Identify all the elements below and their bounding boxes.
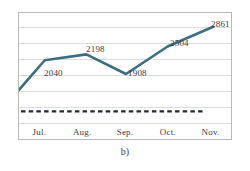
x-axis-tick-oct: Oct. <box>146 124 189 140</box>
x-axis-tick-aug: Aug. <box>61 124 104 140</box>
data-label-jul: 2040 <box>44 68 63 78</box>
data-label-sep: 1908 <box>128 68 147 78</box>
data-label-nov: 2861 <box>211 19 230 29</box>
x-axis-tick-sep: Sep. <box>104 124 147 140</box>
x-axis-tick-nov: Nov. <box>189 124 232 140</box>
figure-panel: 2040 2198 1908 2504 2861 Jul. Aug. Sep. … <box>0 0 250 171</box>
data-label-aug: 2198 <box>86 44 105 54</box>
x-axis-labels: Jul. Aug. Sep. Oct. Nov. <box>18 124 232 140</box>
data-series-line <box>19 27 213 90</box>
data-label-oct: 2504 <box>170 38 189 48</box>
figure-caption: b) <box>0 146 250 157</box>
x-axis-tick-jul: Jul. <box>18 124 61 140</box>
